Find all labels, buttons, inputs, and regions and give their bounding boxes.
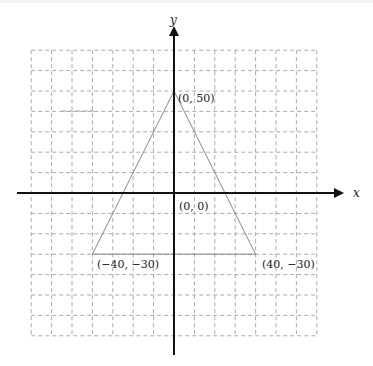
bottom-left-label: (−40, −30) <box>97 258 159 271</box>
bottom-right-label: (40, −30) <box>262 258 315 271</box>
x-axis-label: x <box>353 186 360 200</box>
apex-label: (0, 50) <box>178 92 215 105</box>
coordinate-plane-figure: x y (0, 0) (0, 50) (−40, −30) (40, −30) <box>0 0 373 366</box>
y-axis-label: y <box>169 13 177 27</box>
origin-label: (0, 0) <box>179 200 209 213</box>
